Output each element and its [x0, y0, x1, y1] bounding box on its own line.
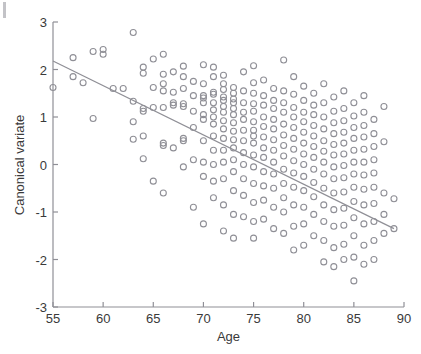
scatter-point	[190, 157, 196, 163]
scatter-point	[361, 134, 367, 140]
scatter-point	[140, 133, 146, 139]
scatter-point	[301, 173, 307, 179]
scatter-point	[251, 235, 257, 241]
scatter-point	[301, 204, 307, 210]
scatter-point	[200, 159, 206, 165]
scatter-point	[231, 105, 237, 111]
data-points	[50, 29, 397, 283]
scatter-point	[261, 145, 267, 151]
scatter-point	[70, 55, 76, 61]
scatter-point	[271, 105, 277, 111]
scatter-point	[140, 64, 146, 70]
x-tick-label: 70	[196, 311, 210, 326]
scatter-point	[200, 221, 206, 227]
scatter-point	[220, 135, 226, 141]
scatter-point	[311, 112, 317, 118]
scatter-point	[231, 128, 237, 134]
scatter-point	[351, 233, 357, 239]
scatter-point	[301, 188, 307, 194]
scatter-point	[220, 72, 226, 78]
scatter-point	[331, 245, 337, 251]
scatter-point	[321, 171, 327, 177]
scatter-point	[281, 181, 287, 187]
scatter-point	[210, 162, 216, 168]
scatter-point	[321, 259, 327, 265]
scatter-point	[220, 126, 226, 132]
scatter-point	[341, 129, 347, 135]
scatter-point	[271, 185, 277, 191]
scatter-point	[271, 137, 277, 143]
scatter-point	[140, 70, 146, 76]
scatter-point	[381, 104, 387, 110]
scatter-point	[291, 91, 297, 97]
scatter-point	[281, 121, 287, 127]
scatter-point	[311, 154, 317, 160]
scatter-point	[241, 109, 247, 115]
scatter-point	[351, 254, 357, 260]
scatter-point	[301, 109, 307, 115]
scatter-point	[281, 195, 287, 201]
scatter-point	[291, 74, 297, 80]
scatter-point	[341, 118, 347, 124]
scatter-point	[220, 86, 226, 92]
x-tick-label: 85	[347, 311, 361, 326]
scatter-point	[341, 205, 347, 211]
scatter-point	[200, 62, 206, 68]
scatter-point	[371, 184, 377, 190]
scatter-point	[231, 112, 237, 118]
scatter-point	[271, 171, 277, 177]
scatter-point	[251, 219, 257, 225]
scatter-point	[231, 120, 237, 126]
scatter-point	[351, 100, 357, 106]
scatter-point	[331, 142, 337, 148]
scatter-point	[160, 51, 166, 57]
scatter-point	[291, 114, 297, 120]
scatter-point	[160, 81, 166, 87]
scatter-point	[200, 173, 206, 179]
scatter-point	[341, 151, 347, 157]
scatter-point	[391, 196, 397, 202]
scatter-point	[261, 124, 267, 130]
scatter-point	[381, 211, 387, 217]
scatter-point	[351, 159, 357, 165]
scatter-point	[331, 176, 337, 182]
scatter-point	[231, 211, 237, 217]
scatter-point	[251, 63, 257, 69]
scatter-point	[220, 109, 226, 115]
scatter-point	[331, 108, 337, 114]
scatter-point	[301, 242, 307, 248]
scatter-point	[190, 204, 196, 210]
scatter-point	[210, 147, 216, 153]
scatter-point	[351, 147, 357, 153]
scatter-point	[220, 81, 226, 87]
scatter-point	[180, 74, 186, 80]
scatter-point	[231, 157, 237, 163]
scatter-point	[281, 132, 287, 138]
scatter-point	[361, 186, 367, 192]
scatter-point	[200, 81, 206, 87]
scatter-point	[331, 120, 337, 126]
scatter-point	[351, 171, 357, 177]
scatter-point	[331, 94, 337, 100]
scatter-point	[160, 71, 166, 77]
scatter-point	[321, 185, 327, 191]
scatter-point	[281, 88, 287, 94]
scatter-point	[371, 170, 377, 176]
scatter-point	[261, 134, 267, 140]
scatter-point	[361, 242, 367, 248]
scatter-point	[291, 124, 297, 130]
scatter-point	[361, 109, 367, 115]
scatter-point	[351, 184, 357, 190]
scatter-point	[231, 85, 237, 91]
scatter-point	[351, 215, 357, 221]
scatter-point	[311, 133, 317, 139]
scatter-point	[180, 164, 186, 170]
scatter-point	[321, 126, 327, 132]
scatter-point	[341, 241, 347, 247]
scatter-point	[311, 211, 317, 217]
scatter-point	[381, 139, 387, 145]
scatter-point	[261, 77, 267, 83]
scatter-point	[130, 136, 136, 142]
scatter-point	[80, 80, 86, 86]
scatter-point	[381, 190, 387, 196]
